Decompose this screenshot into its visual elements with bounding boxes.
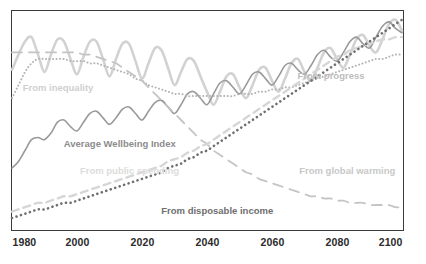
x-tick-2000: 2000 <box>66 236 90 248</box>
series-annotation-average-wellbeing-index: Average Wellbeing Index <box>64 138 176 149</box>
series-annotation-from-inequality: From inequality <box>23 82 94 93</box>
series-annotation-from-global-warming: From global warming <box>299 165 395 176</box>
x-tick-2100: 2100 <box>379 236 403 248</box>
x-tick-2040: 2040 <box>196 236 220 248</box>
series-annotation-from-public-spending: From public spending <box>80 165 179 176</box>
chart-root: From inequalityFrom progressAverage Well… <box>0 0 426 264</box>
series-annotation-from-progress: From progress <box>297 70 364 81</box>
x-tick-1980: 1980 <box>13 236 37 248</box>
series-line-4 <box>12 37 402 212</box>
plot-area <box>11 10 404 231</box>
series-line-5 <box>12 20 402 218</box>
series-annotation-from-disposable-income: From disposable income <box>161 205 273 216</box>
x-tick-2080: 2080 <box>326 236 350 248</box>
x-tick-2060: 2060 <box>261 236 285 248</box>
x-tick-2020: 2020 <box>131 236 155 248</box>
series-layer <box>12 11 402 229</box>
x-axis: 1980200020202040206020802100 <box>0 236 426 258</box>
